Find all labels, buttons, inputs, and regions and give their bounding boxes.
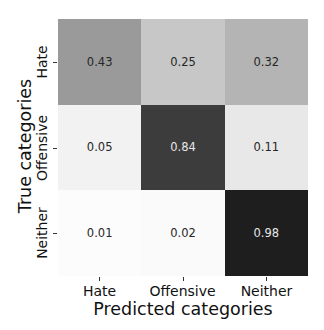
- xtick-hate: Hate: [58, 283, 141, 299]
- y-axis-label: True categories: [15, 61, 35, 231]
- cell-offensive-offensive: 0.84: [141, 105, 224, 191]
- ytick-mark: [53, 62, 57, 63]
- ytick-hate: Hate: [32, 19, 52, 105]
- x-axis-label: Predicted categories: [58, 299, 308, 319]
- cell-neither-offensive: 0.02: [141, 190, 224, 276]
- cell-offensive-hate: 0.05: [58, 105, 141, 191]
- cell-hate-offensive: 0.25: [141, 19, 224, 105]
- cell-neither-hate: 0.01: [58, 190, 141, 276]
- ytick-label: Hate: [34, 45, 50, 78]
- ytick-label: Offensive: [34, 115, 50, 181]
- xtick-mark: [266, 277, 267, 281]
- ytick-neither: Neither: [32, 190, 52, 276]
- cell-hate-hate: 0.43: [58, 19, 141, 105]
- cell-neither-neither: 0.98: [225, 190, 308, 276]
- xtick-mark: [183, 277, 184, 281]
- xtick-mark: [99, 277, 100, 281]
- heatmap-grid: 0.43 0.25 0.32 0.05 0.84 0.11 0.01 0.02 …: [58, 19, 308, 276]
- ytick-offensive: Offensive: [32, 105, 52, 191]
- xtick-offensive: Offensive: [141, 283, 224, 299]
- ytick-mark: [53, 233, 57, 234]
- xtick-neither: Neither: [225, 283, 308, 299]
- cell-hate-neither: 0.32: [225, 19, 308, 105]
- ytick-mark: [53, 148, 57, 149]
- ytick-label: Neither: [34, 207, 50, 259]
- cell-offensive-neither: 0.11: [225, 105, 308, 191]
